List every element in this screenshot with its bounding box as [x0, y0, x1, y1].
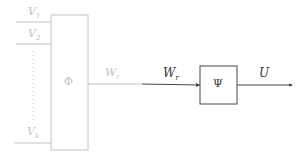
psi-input-label: Wr: [163, 66, 179, 82]
input-label-v1: V1: [28, 5, 40, 20]
arrowhead-out: [289, 84, 293, 87]
arrowhead-psi-in: [196, 83, 200, 87]
output-label-u: U: [259, 66, 269, 80]
psi-label: Ψ: [213, 77, 223, 90]
psi-input-line: [142, 84, 200, 85]
diagram-canvas: [0, 0, 302, 163]
input-label-vk: Vk: [27, 125, 39, 140]
phi-output-label: Wr: [105, 66, 120, 81]
phi-label: Φ: [64, 75, 73, 88]
input-label-v2: V2: [28, 27, 40, 42]
